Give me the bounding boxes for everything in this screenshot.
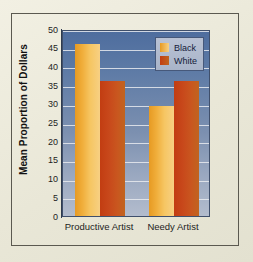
legend-swatch-white-icon <box>160 56 169 65</box>
y-tick-label-25: 25 <box>36 119 58 128</box>
y-tick-label-50: 50 <box>36 26 58 35</box>
bar-black-needy-artist <box>149 106 174 216</box>
y-tick-label-40: 40 <box>36 63 58 72</box>
y-axis-tick-labels: 05101520253035404550 <box>33 30 58 217</box>
y-tick-label-5: 5 <box>36 194 58 203</box>
y-tick-label-15: 15 <box>36 156 58 165</box>
y-tick-label-45: 45 <box>36 44 58 53</box>
legend-label-white: White <box>174 56 197 66</box>
plot-area: Black White <box>62 30 210 217</box>
x-tick-label-needy-artist: Needy Artist <box>113 221 233 232</box>
legend-item-white: White <box>160 54 197 67</box>
bar-white-productive-artist <box>100 81 125 216</box>
chart-legend: Black White <box>155 37 204 71</box>
y-axis-title: Mean Proportion of Dollars <box>18 30 29 190</box>
y-tick-label-20: 20 <box>36 138 58 147</box>
legend-label-black: Black <box>174 43 196 53</box>
bar-black-productive-artist <box>75 44 100 216</box>
legend-item-black: Black <box>160 41 197 54</box>
y-tick-label-35: 35 <box>36 82 58 91</box>
y-tick-label-10: 10 <box>36 175 58 184</box>
chart-figure: 05101520253035404550 Mean Proportion of … <box>0 0 253 262</box>
gridline-50 <box>63 31 209 32</box>
legend-swatch-black-icon <box>160 43 169 52</box>
y-tick-label-30: 30 <box>36 100 58 109</box>
bar-white-needy-artist <box>174 81 199 216</box>
